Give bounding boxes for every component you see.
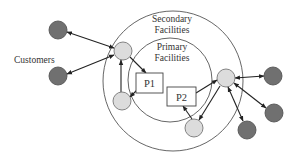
secondary-facility-left-top (114, 42, 132, 60)
p2-label: P2 (176, 92, 187, 103)
customer-node-right-3 (238, 121, 256, 139)
arrow-s3-s4 (199, 86, 220, 120)
arrow-p2-s3 (196, 80, 217, 93)
secondary-facility-right (217, 69, 235, 87)
primary-label-line2: Facilities (155, 53, 190, 63)
customer-node-left-2 (49, 67, 67, 85)
p1-label: P1 (144, 78, 155, 89)
facility-network-diagram: Customers Secondary Facilities Primary F… (0, 0, 296, 158)
customers-label: Customers (14, 55, 55, 65)
secondary-facility-left-bottom (113, 92, 131, 110)
primary-facility-p2: P2 (167, 87, 196, 106)
customer-node-left-1 (49, 21, 67, 39)
secondary-label-line1: Secondary (152, 14, 192, 24)
secondary-facility-bottom (185, 119, 203, 137)
arrow-s3-c3 (235, 76, 264, 78)
arrow-c1-s1 (67, 32, 114, 48)
customer-node-right-2 (265, 104, 283, 122)
arrow-s4-p2 (183, 106, 192, 119)
primary-facility-p1: P1 (136, 73, 163, 93)
arrow-c2-s1 (67, 55, 114, 74)
arrow-s1-p1 (130, 57, 146, 73)
arrow-s3-c5 (228, 87, 243, 121)
secondary-label-line2: Facilities (155, 25, 190, 35)
primary-label-line1: Primary (157, 42, 188, 52)
customer-node-right-1 (264, 67, 282, 85)
